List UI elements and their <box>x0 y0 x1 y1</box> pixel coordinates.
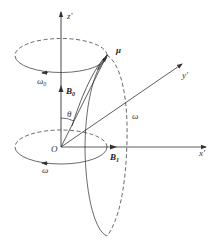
b0-label: B0 <box>65 86 75 97</box>
omega-nutation-label: ω <box>132 111 138 121</box>
omega-bottom-label: ω <box>42 165 48 175</box>
b1-label: B1 <box>109 152 119 163</box>
y-axis-label: y' <box>181 70 189 80</box>
x-axis-label: x' <box>198 148 206 158</box>
top-rotation-arrow-icon <box>42 73 48 74</box>
theta-label: θ <box>67 109 72 119</box>
magnetic-moment-diagram: z' y' x' O μ B0 B1 θ ω0 ω ω <box>0 0 217 248</box>
omega0-label: ω0 <box>37 76 46 87</box>
bottom-rotation-arrow-icon <box>42 163 48 164</box>
origin-label: O <box>51 144 58 154</box>
b0-arrow-icon <box>59 85 64 92</box>
mu-label: μ <box>115 45 121 55</box>
mu-vector <box>61 55 107 147</box>
z-axis-label: z' <box>66 11 74 21</box>
nutation-ellipse <box>85 55 127 236</box>
b1-arrow-icon <box>110 145 117 150</box>
